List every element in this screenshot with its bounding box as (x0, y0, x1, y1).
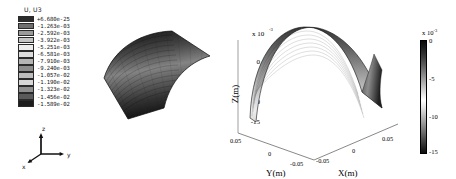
z-exponent-sup: -3 (269, 27, 274, 32)
colorbar-exponent: x 10-3 (422, 28, 437, 36)
legend-swatch (18, 65, 34, 72)
x-tick-1: 0 (352, 147, 355, 154)
legend-row: -1.190e-02 (18, 79, 104, 86)
legend-swatch (18, 51, 34, 58)
legend-value: -3.922e-03 (37, 37, 70, 43)
y-tick-2: -0.05 (290, 160, 303, 167)
legend-value: +6.680e-25 (37, 16, 70, 22)
legend-swatch (18, 93, 34, 100)
colorbar-gradient (420, 40, 427, 154)
legend-row: -5.251e-03 (18, 44, 104, 51)
legend-swatch (18, 16, 34, 23)
legend-row: -6.581e-03 (18, 51, 104, 58)
legend-swatch (18, 37, 34, 44)
legend-value: -9.240e-03 (37, 65, 70, 71)
abaqus-surface-plot (98, 26, 216, 122)
legend-value: -1.323e-02 (37, 86, 70, 92)
legend-value: -6.581e-03 (37, 51, 70, 57)
y-tick-1: 0 (268, 150, 271, 157)
legend-value: -1.456e-02 (37, 94, 70, 100)
legend-row: +6.680e-25 (18, 16, 104, 23)
figure-container: U, U3 +6.680e-25-1.263e-03-2.592e-03-3.9… (0, 0, 456, 179)
legend-swatch (18, 79, 34, 86)
triad-x-label: x (22, 163, 26, 170)
contour-legend: U, U3 +6.680e-25-1.263e-03-2.592e-03-3.9… (18, 6, 104, 107)
legend-swatch (18, 58, 34, 65)
right-panel: x 10 -3 0 -5 -10 -15 Z(m) (222, 0, 456, 179)
legend-value: -7.910e-03 (37, 58, 70, 64)
colorbar-tick-3: -15 (429, 148, 438, 155)
legend-value: -1.190e-02 (37, 79, 70, 85)
legend-swatch (18, 100, 34, 107)
legend-row: -2.592e-03 (18, 30, 104, 37)
z-axis-title: Z(m) (230, 85, 240, 104)
colorbar: x 10-3 0 -5 -10 -15 (420, 30, 456, 160)
colorbar-tick-0: 0 (429, 37, 432, 44)
legend-row: -1.057e-02 (18, 72, 104, 79)
legend-row: -7.910e-03 (18, 58, 104, 65)
legend-row: -1.456e-02 (18, 93, 104, 100)
triad-z-label: z (42, 125, 45, 132)
matlab-surface-plot: x 10 -3 0 -5 -10 -15 Z(m) (222, 0, 422, 179)
legend-swatch (18, 44, 34, 51)
colorbar-tick-1: -5 (429, 75, 435, 82)
legend-value: -2.592e-03 (37, 30, 70, 36)
legend-row: -1.589e-02 (18, 100, 104, 107)
x-axis-title: X(m) (338, 168, 358, 178)
left-panel: U, U3 +6.680e-25-1.263e-03-2.592e-03-3.9… (0, 0, 220, 179)
legend-row: -3.922e-03 (18, 37, 104, 44)
legend-rows: +6.680e-25-1.263e-03-2.592e-03-3.922e-03… (18, 16, 104, 108)
legend-swatch (18, 23, 34, 30)
legend-row: -9.240e-03 (18, 65, 104, 72)
x-tick-2: 0.05 (382, 135, 393, 142)
legend-swatch (18, 72, 34, 79)
coordinate-triad-icon: z y x (22, 122, 80, 170)
x-tick-0: -0.05 (316, 157, 329, 164)
legend-swatch (18, 86, 34, 93)
legend-swatch (18, 30, 34, 37)
legend-value: -1.589e-02 (37, 101, 70, 107)
legend-value: -1.057e-02 (37, 72, 70, 78)
y-axis-title: Y(m) (266, 168, 286, 178)
z-exponent-label: x 10 (252, 30, 265, 38)
legend-value: -5.251e-03 (37, 44, 70, 50)
legend-title: U, U3 (24, 6, 104, 13)
legend-row: -1.263e-03 (18, 23, 104, 30)
legend-value: -1.263e-03 (37, 23, 70, 29)
triad-y-label: y (67, 151, 71, 159)
legend-row: -1.323e-02 (18, 86, 104, 93)
y-tick-0: 0.05 (230, 137, 241, 144)
z-tick-0: 0 (257, 58, 261, 66)
colorbar-tick-2: -10 (429, 113, 438, 120)
